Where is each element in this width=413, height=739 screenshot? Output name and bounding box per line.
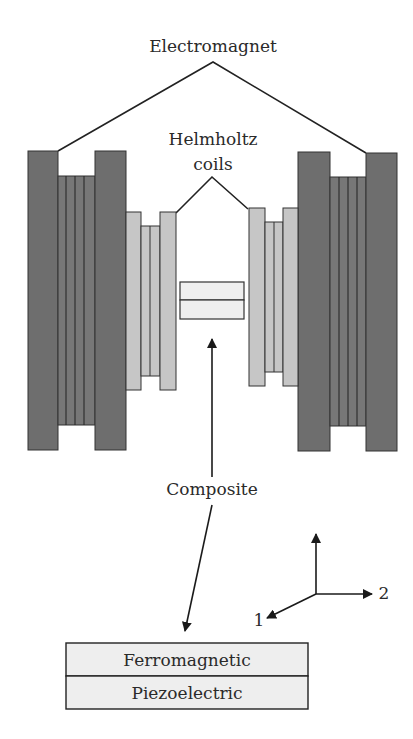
composite-down-arrow: [185, 505, 212, 631]
composite-layer-bottom: [180, 300, 244, 319]
composite-layer-top: [180, 282, 244, 300]
electromagnet-left: [28, 151, 126, 450]
magnet-right-outer-plate: [366, 153, 397, 451]
helmholtz-label-line1: Helmholtz: [169, 129, 258, 149]
piezoelectric-label: Piezoelectric: [131, 683, 242, 703]
axis-2-label: 2: [379, 583, 390, 603]
composite-sample: [180, 282, 244, 319]
axis-1-label: 1: [254, 610, 265, 630]
coordinate-axes: 2 1: [254, 534, 390, 630]
magnet-right-inner-plate: [298, 152, 330, 451]
electromagnet-right: [298, 152, 397, 451]
helmholtz-coil-left: [126, 212, 176, 390]
helmholtz-coil-right: [249, 208, 298, 386]
magnet-left-inner-plate: [95, 151, 126, 450]
magnet-left-coil: [58, 176, 95, 425]
electromagnet-label: Electromagnet: [149, 36, 277, 56]
composite-label: Composite: [166, 479, 258, 499]
magnet-left-outer-plate: [28, 151, 58, 450]
axis-1-arrow: [267, 594, 316, 618]
helmholtz-right-plate-inner: [249, 208, 265, 386]
ferromagnetic-label: Ferromagnetic: [123, 650, 250, 670]
helmholtz-left-plate-outer: [126, 212, 141, 390]
helmholtz-leader: [176, 177, 248, 213]
helmholtz-right-plate-outer: [283, 208, 298, 386]
layer-stack: Ferromagnetic Piezoelectric: [66, 643, 308, 709]
diagram-canvas: Electromagnet Helmholtz coils: [0, 0, 413, 739]
helmholtz-left-plate-inner: [160, 212, 176, 390]
helmholtz-label-line2: coils: [193, 154, 232, 174]
